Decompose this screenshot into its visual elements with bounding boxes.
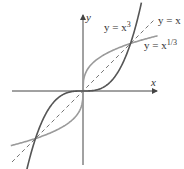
y-axis-label: y: [85, 11, 91, 23]
identity-label: y = x: [158, 14, 181, 26]
cube-label: y = x3: [104, 20, 131, 33]
function-graph: y x y = x3 y = x y = x1/3: [0, 0, 184, 169]
x-axis-label: x: [150, 76, 156, 88]
cube-root-label: y = x1/3: [144, 38, 177, 51]
